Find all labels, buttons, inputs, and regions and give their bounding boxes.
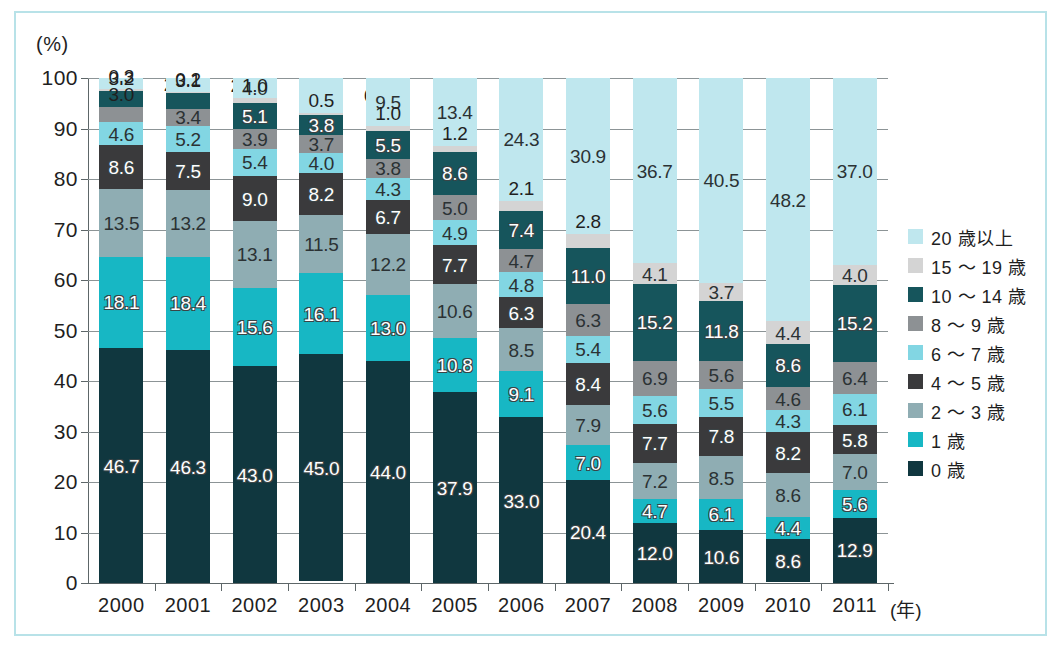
y-axis-tick-mark bbox=[81, 482, 88, 483]
bar-segment: 4.7 bbox=[633, 499, 677, 523]
legend-item[interactable]: 1 歳 bbox=[908, 425, 1048, 454]
y-axis-tick-labels: 1009080706050403020100 bbox=[20, 0, 78, 655]
bar-segment-value: 3.7 bbox=[309, 134, 335, 153]
bar-2000[interactable]: 2.20.33.23.04.68.613.518.146.7 bbox=[99, 78, 143, 583]
bar-segment: 8.5 bbox=[499, 328, 543, 371]
bar-segment: 9.0 bbox=[233, 176, 277, 221]
bar-segment-value: 7.0 bbox=[575, 453, 601, 472]
bar-segment: 3.8 bbox=[366, 159, 410, 178]
bar-segment: 40.5 bbox=[699, 78, 743, 283]
legend-item[interactable]: 8 〜 9 歳 bbox=[908, 309, 1048, 338]
bar-segment-value: 43.0 bbox=[237, 465, 273, 484]
y-axis-tick-label: 100 bbox=[32, 67, 78, 88]
bar-segment-value: 6.4 bbox=[842, 368, 868, 387]
chart-legend: 20 歳以上15 〜 19 歳10 〜 14 歳8 〜 9 歳6 〜 7 歳4 … bbox=[908, 222, 1048, 483]
legend-label: 6 〜 7 歳 bbox=[931, 340, 1006, 366]
x-axis-tick-mark bbox=[221, 583, 222, 591]
bar-segment-value: 5.6 bbox=[642, 400, 668, 419]
bar-segment-value: 5.5 bbox=[709, 393, 735, 412]
legend-item[interactable]: 6 〜 7 歳 bbox=[908, 338, 1048, 367]
bar-segment-value: 4.0 bbox=[309, 154, 335, 173]
x-axis-tick-mark bbox=[288, 583, 289, 591]
bar-segment: 3.8 bbox=[299, 115, 343, 134]
x-axis-tick-mark bbox=[421, 583, 422, 591]
x-axis-unit-label: (年) bbox=[890, 595, 922, 622]
legend-item[interactable]: 20 歳以上 bbox=[908, 222, 1048, 251]
bar-segment: 4.6 bbox=[766, 387, 810, 410]
bar-segment-value: 13.5 bbox=[103, 213, 139, 232]
bar-segment-value: 4.6 bbox=[775, 389, 801, 408]
bar-segment-value: 5.5 bbox=[375, 135, 401, 154]
x-axis-tick-label-2009: 2009 bbox=[686, 594, 756, 617]
y-axis-tick-mark bbox=[81, 432, 88, 433]
bar-segment: 10.6 bbox=[433, 284, 477, 338]
bar-segment: 10.6 bbox=[699, 530, 743, 584]
bar-segment-value: 3.7 bbox=[709, 282, 735, 301]
bar-segment-value: 3.8 bbox=[309, 115, 335, 134]
x-axis-tick-label-2000: 2000 bbox=[86, 594, 156, 617]
x-axis-tick-label-2003: 2003 bbox=[286, 594, 356, 617]
legend-label: 0 歳 bbox=[931, 456, 966, 482]
bar-segment: 8.6 bbox=[766, 539, 810, 582]
bar-2006[interactable]: 24.32.17.44.74.86.38.59.133.0 bbox=[499, 78, 543, 583]
bar-segment-value: 7.7 bbox=[442, 255, 468, 274]
y-axis-tick-mark bbox=[81, 129, 88, 130]
plot-area: 2.20.33.23.04.68.613.518.146.72.80.23.13… bbox=[88, 78, 888, 583]
bar-segment: 4.6 bbox=[99, 122, 143, 145]
bar-segment-value: 33.0 bbox=[503, 491, 539, 510]
bar-segment: 6.1 bbox=[699, 499, 743, 530]
y-axis-tick-mark bbox=[81, 583, 88, 584]
bar-segment-value: 6.3 bbox=[575, 310, 601, 329]
bar-2008[interactable]: 36.74.115.26.95.67.77.24.712.0 bbox=[633, 78, 677, 583]
bar-2011[interactable]: 37.04.015.26.46.15.87.05.612.9 bbox=[833, 78, 877, 583]
bar-segment: 8.2 bbox=[299, 173, 343, 214]
bar-segment-value: 4.3 bbox=[775, 412, 801, 431]
bar-segment: 5.5 bbox=[699, 389, 743, 417]
bar-2009[interactable]: 40.53.711.85.65.57.88.56.110.6 bbox=[699, 78, 743, 583]
legend-item[interactable]: 10 〜 14 歳 bbox=[908, 280, 1048, 309]
x-axis-tick-label-2010: 2010 bbox=[753, 594, 823, 617]
bar-segment: 18.1 bbox=[99, 257, 143, 348]
bar-segment-value: 37.0 bbox=[837, 162, 873, 181]
legend-item[interactable]: 0 歳 bbox=[908, 454, 1048, 483]
legend-item[interactable]: 15 〜 19 歳 bbox=[908, 251, 1048, 280]
bar-segment-value: 7.4 bbox=[509, 220, 535, 239]
bar-segment: 3.0 bbox=[99, 107, 143, 122]
bar-2002[interactable]: 4.01.05.13.95.49.013.115.643.0 bbox=[233, 78, 277, 583]
bar-segment: 13.5 bbox=[99, 189, 143, 257]
bar-segment-value: 2.1 bbox=[509, 179, 535, 198]
bar-segment: 5.4 bbox=[566, 336, 610, 363]
bar-segment: 4.0 bbox=[299, 153, 343, 173]
bar-segment-value: 8.6 bbox=[109, 157, 135, 176]
bar-segment-value: 4.4 bbox=[775, 518, 801, 537]
bar-segment: 4.7 bbox=[499, 249, 543, 273]
bar-segment-value: 16.1 bbox=[303, 304, 339, 323]
bar-segment: 13.0 bbox=[366, 295, 410, 361]
bar-segment: 6.4 bbox=[833, 362, 877, 394]
bar-segment-value: 11.0 bbox=[571, 266, 605, 285]
bar-2007[interactable]: 30.92.811.06.35.48.47.97.020.4 bbox=[566, 78, 610, 583]
bar-2003[interactable]: 6.90.53.83.74.08.211.516.145.0 bbox=[299, 78, 343, 583]
bar-segment-value: 8.5 bbox=[509, 340, 535, 359]
bar-segment: 4.8 bbox=[499, 272, 543, 296]
x-axis-tick-label-2001: 2001 bbox=[153, 594, 223, 617]
bar-segment-value: 37.9 bbox=[437, 478, 473, 497]
bar-2004[interactable]: 9.51.05.53.84.36.712.213.044.0 bbox=[366, 78, 410, 583]
bar-segment: 3.7 bbox=[699, 283, 743, 302]
bar-segment-value: 7.0 bbox=[842, 462, 868, 481]
bar-segment-value: 5.6 bbox=[709, 365, 735, 384]
bar-segment-value: 15.6 bbox=[237, 317, 273, 336]
bar-2010[interactable]: 48.24.48.64.64.38.28.64.48.6 bbox=[766, 78, 810, 583]
bar-2005[interactable]: 13.41.28.65.04.97.710.610.837.9 bbox=[433, 78, 477, 583]
legend-label: 8 〜 9 歳 bbox=[931, 311, 1006, 337]
legend-item[interactable]: 4 〜 5 歳 bbox=[908, 367, 1048, 396]
bar-2001[interactable]: 2.80.23.13.45.27.513.218.446.3 bbox=[166, 78, 210, 583]
bar-segment-value: 7.5 bbox=[175, 162, 201, 181]
bar-segment: 7.8 bbox=[699, 417, 743, 456]
legend-label: 2 〜 3 歳 bbox=[931, 398, 1006, 424]
x-axis-tick-mark bbox=[688, 583, 689, 591]
y-axis-tick-label: 80 bbox=[32, 168, 78, 189]
bar-segment-value: 13.0 bbox=[370, 318, 406, 337]
bar-segment: 5.6 bbox=[633, 396, 677, 424]
legend-item[interactable]: 2 〜 3 歳 bbox=[908, 396, 1048, 425]
